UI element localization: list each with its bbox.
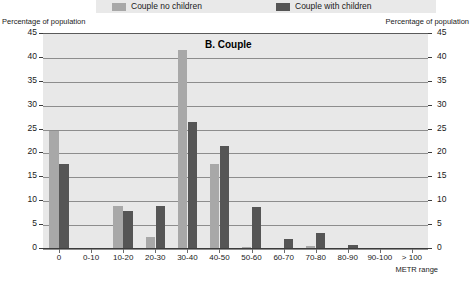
y-axis-tick-mark-left-45 [39, 33, 43, 34]
y-axis-tick-mark-right-15 [428, 176, 432, 177]
y-axis-tick-label-right-25: 25 [437, 124, 467, 133]
y-axis-tick-label-left-20: 20 [7, 147, 37, 156]
bar-couple-with-children-70-80 [316, 233, 326, 249]
right-axis-caption: Percentage of population [386, 17, 469, 26]
y-axis-tick-mark-right-45 [428, 33, 432, 34]
gridline [43, 177, 428, 178]
y-axis-tick-mark-right-5 [428, 224, 432, 225]
y-axis-tick-label-left-30: 30 [7, 100, 37, 109]
y-axis-tick-label-right-45: 45 [437, 28, 467, 37]
y-axis-tick-mark-right-40 [428, 57, 432, 58]
y-axis-tick-label-left-45: 45 [7, 28, 37, 37]
y-axis-tick-mark-right-20 [428, 152, 432, 153]
gridline [43, 201, 428, 202]
bar-couple-no-children-0 [49, 131, 59, 249]
y-axis-tick-label-right-5: 5 [437, 219, 467, 228]
y-axis-tick-label-left-35: 35 [7, 76, 37, 85]
bar-couple-with-children-20-30 [156, 206, 166, 249]
y-axis-tick-label-right-0: 0 [437, 243, 467, 252]
x-axis-tick-label--100: > 100 [390, 253, 434, 262]
y-axis-tick-label-left-10: 10 [7, 195, 37, 204]
bar-couple-with-children-10-20 [123, 211, 133, 249]
y-axis-tick-mark-left-0 [39, 248, 43, 249]
y-axis-tick-label-right-35: 35 [437, 76, 467, 85]
y-axis-tick-label-right-10: 10 [437, 195, 467, 204]
y-axis-tick-label-left-25: 25 [7, 124, 37, 133]
gridline [43, 249, 428, 250]
gridline [43, 130, 428, 131]
y-axis-tick-label-right-15: 15 [437, 171, 467, 180]
y-axis-tick-mark-left-25 [39, 129, 43, 130]
legend-label-couple-no-children: Couple no children [131, 2, 202, 11]
y-axis-tick-mark-right-0 [428, 248, 432, 249]
x-axis-title: METR range [395, 265, 438, 274]
bar-couple-with-children-50-60 [252, 207, 262, 249]
y-axis-tick-label-left-15: 15 [7, 171, 37, 180]
legend-label-couple-with-children: Couple with children [295, 2, 372, 11]
left-axis-caption: Percentage of population [2, 17, 85, 26]
y-axis-tick-label-left-0: 0 [7, 243, 37, 252]
gridline [43, 82, 428, 83]
bar-couple-with-children-0 [59, 164, 69, 249]
gridline [43, 58, 428, 59]
y-axis-tick-mark-right-30 [428, 105, 432, 106]
bar-couple-with-children-40-50 [220, 146, 230, 249]
gridline [43, 153, 428, 154]
y-axis-tick-mark-left-40 [39, 57, 43, 58]
y-axis-tick-mark-left-5 [39, 224, 43, 225]
bar-couple-with-children-30-40 [188, 122, 198, 249]
y-axis-tick-label-right-20: 20 [437, 147, 467, 156]
legend-swatch-light [112, 3, 126, 11]
y-axis-tick-mark-right-10 [428, 200, 432, 201]
x-axis-baseline [43, 248, 428, 249]
y-axis-tick-label-right-40: 40 [437, 52, 467, 61]
gridline [43, 106, 428, 107]
y-axis-tick-mark-left-30 [39, 105, 43, 106]
y-axis-tick-label-right-30: 30 [437, 100, 467, 109]
bar-couple-no-children-40-50 [210, 164, 220, 249]
y-axis-tick-label-left-5: 5 [7, 219, 37, 228]
legend-entry-couple-with-children: Couple with children [276, 0, 372, 13]
legend-swatch-dark [276, 3, 290, 11]
chart-legend: Couple no children Couple with children [96, 0, 436, 13]
y-axis-tick-mark-left-35 [39, 81, 43, 82]
chart-title: B. Couple [205, 39, 252, 51]
y-axis-tick-mark-left-20 [39, 152, 43, 153]
plot-area [43, 34, 428, 249]
y-axis-tick-mark-left-15 [39, 176, 43, 177]
bar-couple-no-children-10-20 [113, 206, 123, 249]
y-axis-tick-mark-left-10 [39, 200, 43, 201]
bar-couple-no-children-30-40 [178, 50, 188, 249]
y-axis-tick-mark-right-35 [428, 81, 432, 82]
gridline [43, 225, 428, 226]
legend-entry-couple-no-children: Couple no children [112, 0, 202, 13]
plot-frame [43, 33, 428, 249]
y-axis-tick-label-left-40: 40 [7, 52, 37, 61]
y-axis-tick-mark-right-25 [428, 129, 432, 130]
